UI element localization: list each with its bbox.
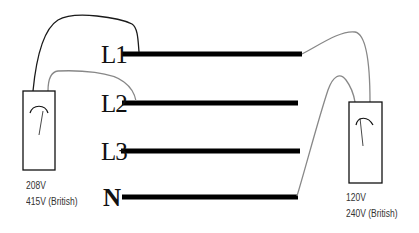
bus-label-l1: L1 <box>101 42 127 67</box>
wire-right-meter-to-n <box>297 76 355 196</box>
right-meter-voltage-us: 120V <box>346 190 397 206</box>
left-meter-voltage-us: 208V <box>26 178 77 194</box>
right-meter-box <box>349 102 382 183</box>
right-meter-voltage: 120V 240V (British) <box>346 190 397 222</box>
left-meter-voltage: 208V 415V (British) <box>26 178 77 210</box>
bus-label-l3: L3 <box>101 139 127 164</box>
wiring-diagram: L1 L2 L3 N 208V 415V (British) 120V 240V… <box>0 0 419 233</box>
left-meter-box <box>23 91 55 170</box>
left-meter-voltage-british: 415V (British) <box>26 194 77 210</box>
bus-label-l2: L2 <box>101 91 127 116</box>
wire-right-meter-to-l1 <box>302 32 370 102</box>
bus-label-n: N <box>103 185 120 210</box>
right-meter-voltage-british: 240V (British) <box>346 206 397 222</box>
